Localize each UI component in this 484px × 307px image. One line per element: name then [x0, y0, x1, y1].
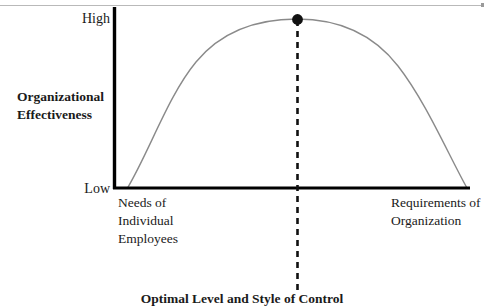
chart-plot-area	[0, 0, 484, 307]
figure-caption: Optimal Level and Style of Control	[0, 290, 484, 307]
x-axis-label-right: Requirements of Organization	[391, 194, 481, 230]
y-axis-title: Organizational Effectiveness	[17, 88, 112, 124]
x-axis-label-left: Needs of Individual Employees	[118, 194, 178, 248]
y-axis-tick-low: Low	[30, 180, 110, 198]
figure-canvas: High Low Organizational Effectiveness Ne…	[0, 0, 484, 307]
y-axis-tick-high: High	[30, 10, 110, 28]
optimum-point-marker	[292, 14, 303, 25]
